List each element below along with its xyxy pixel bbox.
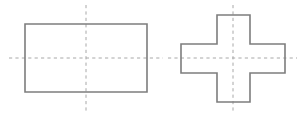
cross-view — [168, 5, 297, 112]
drawing-canvas — [0, 0, 301, 115]
technical-drawing-figure — [0, 0, 301, 115]
rectangle-view — [9, 5, 163, 111]
